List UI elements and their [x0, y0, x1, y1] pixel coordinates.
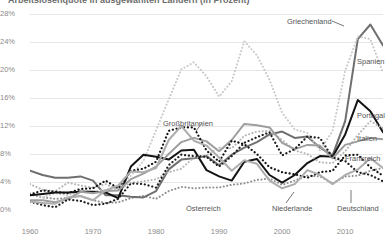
y-axis-tick-label: 16% — [0, 94, 24, 102]
series-label-griechenland: Griechenland — [287, 18, 332, 26]
series-label-portugal: Portugal — [357, 112, 385, 120]
series-line-grobritannien — [30, 127, 383, 194]
series-label-sterreich: Österreich — [186, 205, 221, 213]
series-label-grobritannien: Großbritannien — [163, 120, 213, 128]
x-axis-tick-label: 1990 — [199, 228, 239, 236]
y-axis-tick-label: 12% — [0, 122, 24, 130]
series-line-spanien — [30, 36, 383, 197]
x-axis-tick-label: 1970 — [73, 228, 113, 236]
series-label-deutschland: Deutschland — [337, 205, 379, 213]
series-label-niederlande: Niederlande — [272, 205, 312, 213]
chart-container: Arbeitslosenquote in ausgewählten Länder… — [0, 0, 390, 245]
x-axis-tick-label: 1980 — [136, 228, 176, 236]
x-axis-tick-label: 1960 — [10, 228, 50, 236]
plot-area — [30, 14, 383, 210]
y-axis-tick-label: 0% — [0, 206, 24, 214]
series-label-frankreich: Frankreich — [345, 155, 380, 163]
plot-svg — [30, 14, 383, 210]
chart-title: Arbeitslosenquote in ausgewählten Länder… — [8, 0, 308, 5]
y-axis-tick-label: 4% — [0, 178, 24, 186]
y-axis-tick-label: 24% — [0, 38, 24, 46]
series-label-italien: Italien — [357, 135, 377, 143]
x-axis-tick-label: 2010 — [325, 228, 365, 236]
y-axis-tick-label: 28% — [0, 10, 24, 18]
x-axis-tick-label: 2000 — [262, 228, 302, 236]
y-axis-tick-label: 20% — [0, 66, 24, 74]
y-axis-tick-label: 8% — [0, 150, 24, 158]
series-label-spanien: Spanien — [357, 58, 385, 66]
